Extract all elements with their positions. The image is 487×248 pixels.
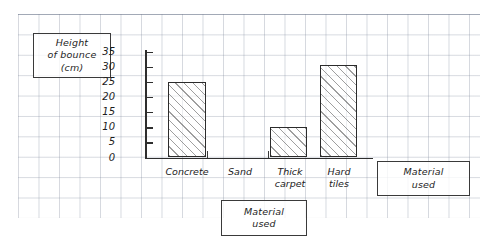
x-axis-title-bottom-line-2: used (252, 218, 276, 231)
x-axis-title-box-right: Material used (377, 161, 470, 196)
graph-paper-top-edge (18, 14, 480, 15)
x-axis-title-bottom-line-1: Material (244, 206, 284, 219)
graph-paper-sheet: Height of bounce (cm) 35 30 25 20 15 (0, 0, 487, 248)
y-axis-title-box: Height of bounce (cm) (33, 33, 111, 78)
x-axis-title-right-line-1: Material (403, 166, 443, 179)
y-axis-title-line-1: Height (56, 37, 89, 50)
x-axis-title-right-line-2: used (412, 179, 436, 192)
x-axis-title-box-bottom: Material used (221, 200, 307, 236)
y-axis-title-line-2: of bounce (48, 49, 97, 62)
y-axis-title-line-3: (cm) (61, 62, 84, 75)
